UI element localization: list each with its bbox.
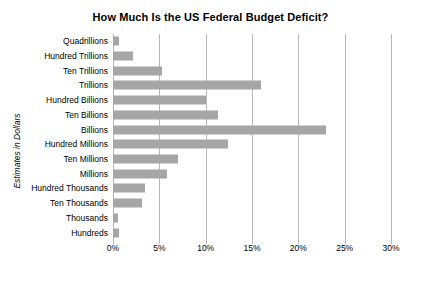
x-tick-label: 20%: [290, 243, 307, 253]
bar-row: Thousands: [113, 211, 391, 226]
bar: [113, 81, 261, 90]
bar: [113, 110, 218, 119]
y-category-label: Hundreds: [71, 228, 108, 237]
y-category-label: Thousands: [66, 214, 108, 223]
x-tick-label: 5%: [153, 243, 165, 253]
y-category-label: Hundred Trillions: [44, 52, 108, 61]
y-category-label: Hundred Billions: [46, 96, 108, 105]
y-category-label: Quadrillions: [63, 37, 108, 46]
y-category-label: Ten Trillions: [63, 67, 108, 76]
y-category-label: Ten Billions: [65, 111, 108, 120]
bar-row: Ten Thousands: [113, 196, 391, 211]
y-category-label: Ten Millions: [64, 155, 108, 164]
plot-area: QuadrillionsHundred TrillionsTen Trillio…: [113, 34, 391, 240]
bar: [113, 125, 326, 134]
bar-row: Hundred Billions: [113, 93, 391, 108]
bar-row: Trillions: [113, 78, 391, 93]
bar: [113, 66, 162, 75]
y-category-label: Hundred Millions: [45, 140, 108, 149]
bar-row: Hundred Trillions: [113, 49, 391, 64]
y-category-label: Trillions: [79, 81, 108, 90]
x-tick-label: 0%: [107, 243, 119, 253]
x-tick-label: 10%: [197, 243, 214, 253]
bar-row: Quadrillions: [113, 34, 391, 49]
bar: [113, 184, 145, 193]
bar-row: Millions: [113, 166, 391, 181]
y-category-label: Billions: [81, 125, 108, 134]
bar-row: Hundreds: [113, 225, 391, 240]
bar-row: Ten Billions: [113, 108, 391, 123]
y-category-label: Ten Thousands: [50, 199, 108, 208]
y-category-label: Hundred Thousands: [31, 184, 108, 193]
x-tick-label: 30%: [382, 243, 399, 253]
y-category-label: Millions: [80, 170, 108, 179]
bar-row: Hundred Millions: [113, 137, 391, 152]
bar-chart: How Much Is the US Federal Budget Defici…: [0, 0, 421, 283]
chart-title: How Much Is the US Federal Budget Defici…: [0, 11, 421, 23]
bar: [113, 169, 167, 178]
bar: [113, 96, 206, 105]
x-tick-label: 15%: [243, 243, 260, 253]
bar: [113, 140, 228, 149]
y-axis-title-text: Estimates in Dollars: [12, 113, 22, 188]
bar: [113, 155, 178, 164]
bar-row: Ten Millions: [113, 152, 391, 167]
bar-row: Billions: [113, 122, 391, 137]
bar: [113, 213, 118, 222]
x-tick-label: 25%: [336, 243, 353, 253]
bar: [113, 228, 119, 237]
bar: [113, 37, 119, 46]
bar-row: Hundred Thousands: [113, 181, 391, 196]
bar: [113, 52, 133, 61]
bar-row: Ten Trillions: [113, 63, 391, 78]
bar: [113, 199, 142, 208]
y-axis-title: Estimates in Dollars: [9, 96, 25, 206]
x-gridline: [391, 34, 392, 240]
